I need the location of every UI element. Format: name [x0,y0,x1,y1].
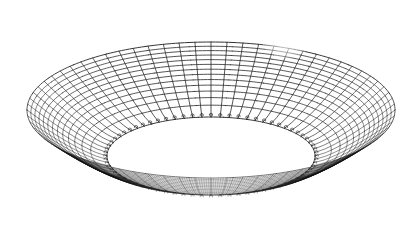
figure-root: Wire mesh funnel Oblique view of a circu… [0,0,415,234]
scan-fade-patch [262,24,310,58]
scan-fade-layer [262,24,310,58]
wire-mesh-funnel-svg [0,0,415,234]
